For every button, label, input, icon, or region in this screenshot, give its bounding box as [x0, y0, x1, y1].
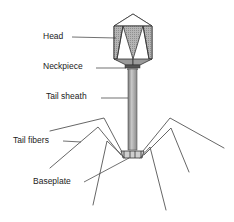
baseplate-label: Baseplate	[33, 177, 71, 186]
head-capsid	[114, 14, 152, 65]
tail-sheath	[128, 69, 137, 150]
head-label: Head	[43, 32, 63, 41]
neckpiece-label: Neckpiece	[43, 62, 83, 71]
tail-sheath-label: Tail sheath	[46, 92, 87, 101]
bacteriophage-diagram	[0, 0, 234, 222]
tail-fibers-label: Tail fibers	[13, 136, 49, 145]
